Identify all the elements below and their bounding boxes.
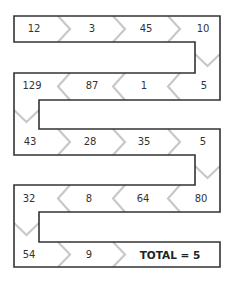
chevron-left-icon (168, 73, 180, 100)
cell-r4-c4: 80 (181, 192, 221, 206)
cell-r1-c2: 3 (72, 22, 112, 36)
cell-r2-c3: 1 (124, 79, 164, 93)
cell-r2-c4: 5 (184, 79, 224, 93)
cell-r4-c1: 32 (9, 192, 49, 206)
cell-r4-c2: 8 (69, 192, 109, 206)
chevron-down-icon (195, 54, 220, 66)
chevron-left-icon (168, 185, 180, 212)
chevron-right-icon (168, 16, 180, 42)
chevron-right-icon (58, 129, 70, 155)
cell-r3-c4: 5 (183, 135, 223, 149)
chevron-left-icon (58, 73, 70, 100)
cell-r1-c4: 10 (183, 22, 223, 36)
cell-r2-c2: 87 (72, 79, 112, 93)
chevron-right-icon (58, 16, 70, 42)
cell-r5-c2: 9 (69, 248, 109, 262)
chevron-down-icon (195, 166, 220, 178)
chevron-right-icon (113, 242, 125, 267)
cell-r3-c1: 43 (10, 135, 50, 149)
cell-r5-c1: 54 (9, 248, 49, 262)
cell-r3-c3: 35 (124, 135, 164, 149)
cell-r4-c3: 64 (123, 192, 163, 206)
chevron-down-icon (14, 110, 39, 122)
cell-r2-c1: 129 (12, 79, 52, 93)
total-label: TOTAL = 5 (125, 248, 215, 262)
chevron-right-icon (113, 16, 125, 42)
cell-r1-c1: 12 (14, 22, 54, 36)
cell-r3-c2: 28 (70, 135, 110, 149)
chevron-right-icon (168, 129, 180, 155)
cell-r1-c3: 45 (126, 22, 166, 36)
chevron-down-icon (14, 223, 39, 235)
